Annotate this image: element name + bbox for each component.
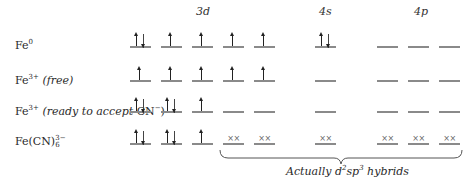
hybrid-annotation: Actually d2sp3 hybrids xyxy=(286,164,409,178)
hybrid-brace-icon xyxy=(0,0,464,182)
annotation-suffix: hybrids xyxy=(364,165,409,178)
annotation-mid: sp xyxy=(346,165,359,178)
annotation-prefix: Actually d xyxy=(286,165,342,178)
